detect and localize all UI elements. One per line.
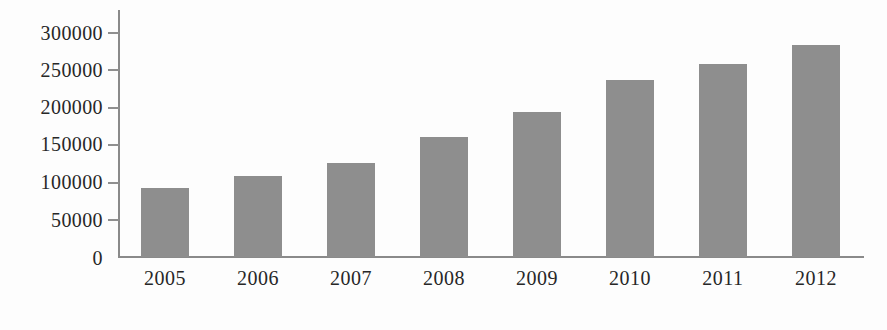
x-axis-tick-label-2006: 2006 [218, 268, 298, 288]
x-axis-tick-label-2012: 2012 [776, 268, 856, 288]
x-axis-tick-label-2008: 2008 [404, 268, 484, 288]
bar-2009 [513, 112, 561, 257]
bar-chart: 300000 250000 200000 150000 100000 50000… [0, 0, 887, 330]
bar-2011 [699, 64, 747, 257]
bar-2008 [420, 137, 468, 257]
bar-2006 [234, 176, 282, 257]
bar-2012 [792, 45, 840, 257]
x-axis-tick-label-2007: 2007 [311, 268, 391, 288]
bar-2007 [327, 163, 375, 257]
x-axis-tick-label-2009: 2009 [497, 268, 577, 288]
x-axis-tick-label-2011: 2011 [683, 268, 763, 288]
x-axis-tick-label-2010: 2010 [590, 268, 670, 288]
x-axis-tick-label-2005: 2005 [125, 268, 205, 288]
bar-2010 [606, 80, 654, 257]
bar-2005 [141, 188, 189, 257]
